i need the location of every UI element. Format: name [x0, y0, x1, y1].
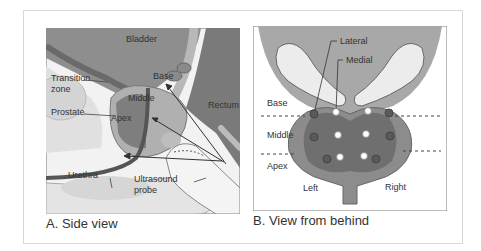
label-medial: Medial — [346, 55, 373, 65]
label-base: Base — [267, 98, 288, 108]
label-ultrasound-probe: Ultrasound — [134, 174, 178, 184]
label-prostate: Prostate — [51, 107, 85, 117]
side-view-illustration: Bladder Transition zone Prostate Base Mi… — [46, 28, 240, 214]
label-bladder: Bladder — [126, 34, 157, 44]
caption-view-from-behind: B. View from behind — [253, 213, 369, 228]
panel-view-from-behind: Lateral Medial Base Middle Apex Left Rig… — [253, 26, 447, 211]
label-middle: Middle — [128, 93, 155, 103]
label-apex: Apex — [111, 113, 132, 123]
panel-side-view: Bladder Transition zone Prostate Base Mi… — [46, 28, 240, 214]
label-urethra: Urethra — [68, 170, 98, 180]
label-base: Base — [153, 71, 174, 81]
label-apex: Apex — [267, 161, 288, 171]
label-transition-zone-2: zone — [51, 84, 71, 94]
label-right: Right — [385, 182, 407, 192]
caption-side-view: A. Side view — [46, 216, 118, 231]
label-lateral: Lateral — [340, 36, 368, 46]
label-rectum: Rectum — [208, 100, 239, 110]
label-ultrasound-probe-2: probe — [134, 185, 157, 195]
behind-view-illustration: Lateral Medial Base Middle Apex Left Rig… — [253, 26, 447, 211]
label-left: Left — [303, 183, 319, 193]
label-transition-zone: Transition — [51, 73, 90, 83]
label-middle: Middle — [267, 130, 294, 140]
